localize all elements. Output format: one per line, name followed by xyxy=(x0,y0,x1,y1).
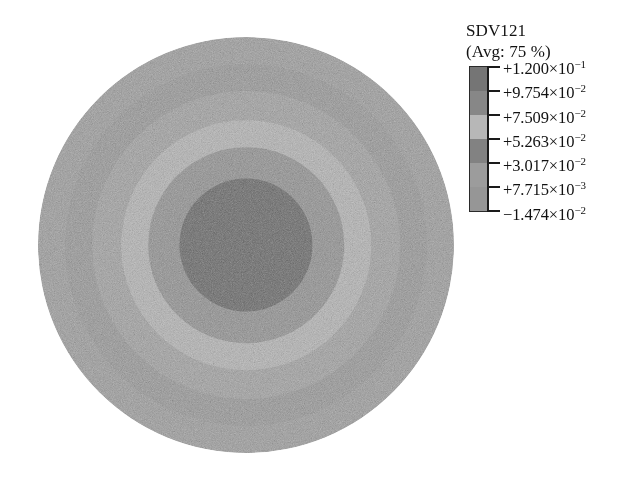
legend-value-sign: + xyxy=(503,156,512,175)
legend-value-base: 10 xyxy=(558,156,574,175)
legend-value-exponent: −1 xyxy=(574,58,586,70)
legend-value-mantissa: 1.200 xyxy=(512,59,549,78)
legend-value-base: 10 xyxy=(558,180,574,199)
legend-value-mantissa: 5.263 xyxy=(512,132,549,151)
legend-value-mantissa: 7.509 xyxy=(512,108,549,127)
legend-value-exponent: −3 xyxy=(574,179,586,191)
legend-value-sign: + xyxy=(503,83,512,102)
colorbar-tick-2 xyxy=(487,114,500,116)
legend-body: +1.200×10−1 +9.754×10−2 +7.509×10−2 +5.2… xyxy=(466,65,629,215)
legend-value-sign: + xyxy=(503,108,512,127)
legend-value: +9.754×10−2 xyxy=(503,81,629,105)
contour-plot xyxy=(0,0,470,479)
colorbar-tick-1 xyxy=(487,90,500,92)
legend-value-exponent: −2 xyxy=(574,106,586,118)
colorbar-band-5 xyxy=(470,187,487,211)
legend-value-times: × xyxy=(549,132,558,151)
legend-value-base: 10 xyxy=(558,205,574,224)
legend-value: +5.263×10−2 xyxy=(503,130,629,154)
legend-value-mantissa: 9.754 xyxy=(512,83,549,102)
legend-value-times: × xyxy=(549,83,558,102)
legend-value-exponent: −2 xyxy=(574,155,586,167)
legend-value-base: 10 xyxy=(558,59,574,78)
figure-root: SDV121 (Avg: 75 %) xyxy=(0,0,629,479)
colorbar-ticks xyxy=(487,65,501,213)
colorbar-tick-3 xyxy=(487,138,500,140)
legend-value-times: × xyxy=(549,180,558,199)
colorbar-band-1 xyxy=(470,91,487,115)
legend-value-base: 10 xyxy=(558,83,574,102)
legend-value-sign: − xyxy=(503,205,512,224)
contour-band-core xyxy=(179,178,312,311)
colorbar-tick-6 xyxy=(487,210,500,212)
legend-value-mantissa: 1.474 xyxy=(512,205,549,224)
colorbar-band-3 xyxy=(470,139,487,163)
legend-value-exponent: −2 xyxy=(574,130,586,142)
colorbar-tick-0 xyxy=(487,66,500,68)
legend-value-exponent: −2 xyxy=(574,82,586,94)
legend-value: +7.715×10−3 xyxy=(503,178,629,202)
colorbar-tick-4 xyxy=(487,162,500,164)
legend-value-times: × xyxy=(549,108,558,127)
colorbar-tick-5 xyxy=(487,186,500,188)
legend-value-exponent: −2 xyxy=(574,203,586,215)
colorbar-band-2 xyxy=(470,115,487,139)
legend-value: +3.017×10−2 xyxy=(503,154,629,178)
contour-disk xyxy=(38,37,454,453)
colorbar xyxy=(469,66,488,212)
legend-value-times: × xyxy=(549,59,558,78)
colorbar-band-0 xyxy=(470,67,487,91)
legend-value-sign: + xyxy=(503,132,512,151)
legend-value: +7.509×10−2 xyxy=(503,106,629,130)
legend-value-list: +1.200×10−1 +9.754×10−2 +7.509×10−2 +5.2… xyxy=(503,57,629,227)
legend-value-times: × xyxy=(549,156,558,175)
legend-value-base: 10 xyxy=(558,132,574,151)
legend-value-times: × xyxy=(549,205,558,224)
legend-value-base: 10 xyxy=(558,108,574,127)
legend-value-mantissa: 3.017 xyxy=(512,156,549,175)
legend: SDV121 (Avg: 75 %) xyxy=(466,20,629,215)
legend-value-sign: + xyxy=(503,180,512,199)
legend-value: −1.474×10−2 xyxy=(503,203,629,227)
legend-title: SDV121 xyxy=(466,20,629,41)
legend-value-mantissa: 7.715 xyxy=(512,180,549,199)
legend-value: +1.200×10−1 xyxy=(503,57,629,81)
colorbar-band-4 xyxy=(470,163,487,187)
legend-value-sign: + xyxy=(503,59,512,78)
